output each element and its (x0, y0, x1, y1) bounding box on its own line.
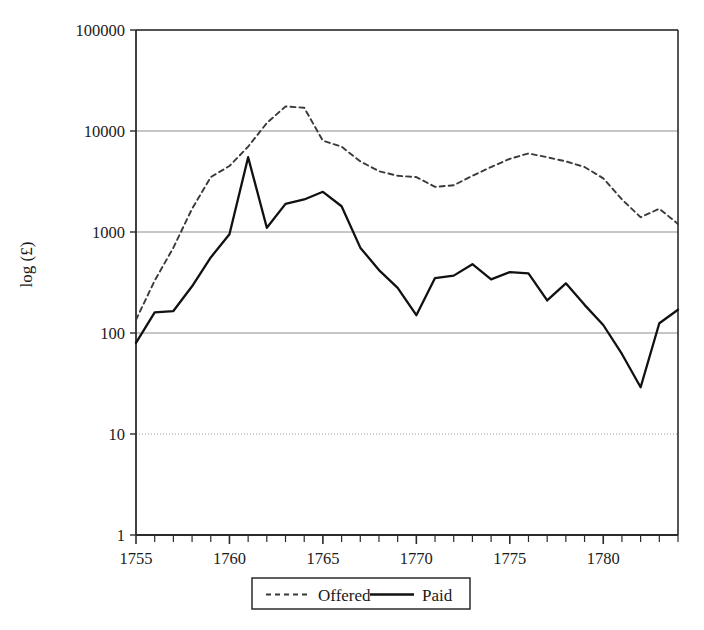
x-tick-label: 1755 (120, 549, 153, 568)
y-tick-label: 1 (117, 526, 125, 545)
x-tick-label: 1760 (213, 549, 246, 568)
x-tick-label: 1780 (587, 549, 620, 568)
x-tick-label: 1770 (400, 549, 433, 568)
plot-background (136, 30, 678, 535)
line-chart: 1101001000100001000001755176017651770177… (0, 0, 704, 630)
legend-label-paid: Paid (422, 586, 453, 605)
y-tick-label: 10000 (84, 122, 125, 141)
legend-label-offered: Offered (318, 586, 371, 605)
y-tick-label: 100000 (76, 21, 126, 40)
x-tick-label: 1765 (306, 549, 339, 568)
x-tick-label: 1775 (493, 549, 526, 568)
y-tick-label: 100 (100, 324, 125, 343)
chart-figure: 1101001000100001000001755176017651770177… (0, 0, 704, 630)
y-tick-label: 1000 (92, 223, 125, 242)
y-tick-label: 10 (109, 425, 126, 444)
y-axis-title: log (£) (17, 242, 36, 288)
